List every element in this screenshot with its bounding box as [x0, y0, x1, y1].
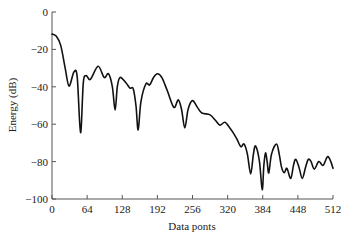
- energy-line-chart: 0−20−40−60−80−100 Energy (dB) 0641281922…: [0, 0, 355, 241]
- y-tick-label: −20: [31, 43, 49, 55]
- x-axis-label: Data ponts: [168, 220, 215, 232]
- x-axis: 064128192256320384448512 Data ponts: [49, 195, 341, 232]
- x-tick-label: 0: [49, 203, 55, 215]
- y-tick-label: 0: [43, 6, 49, 18]
- energy-curve: [52, 34, 333, 190]
- x-tick-label: 384: [255, 203, 272, 215]
- y-tick-label: −80: [31, 156, 49, 168]
- y-tick-label: −100: [25, 193, 48, 205]
- x-tick-label: 320: [219, 203, 236, 215]
- y-tick-label: −60: [31, 118, 49, 130]
- y-axis: 0−20−40−60−80−100 Energy (dB): [6, 6, 56, 205]
- plot-area: [52, 34, 333, 190]
- x-tick-label: 64: [82, 203, 94, 215]
- x-tick-label: 128: [114, 203, 131, 215]
- x-tick-label: 192: [149, 203, 166, 215]
- x-tick-label: 512: [325, 203, 342, 215]
- y-tick-label: −40: [31, 81, 49, 93]
- x-tick-label: 448: [290, 203, 307, 215]
- y-axis-label: Energy (dB): [6, 77, 19, 132]
- x-tick-label: 256: [184, 203, 201, 215]
